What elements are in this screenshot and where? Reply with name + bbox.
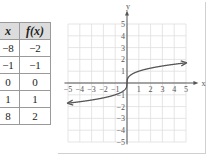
x-tick-label: −4 — [76, 85, 85, 94]
x-tick-label: 1 — [137, 85, 141, 94]
x-tick-label: 5 — [184, 85, 188, 94]
y-tick-label: 3 — [121, 44, 125, 53]
x-axis-label: x — [201, 79, 205, 88]
y-tick-label: −5 — [116, 138, 125, 147]
x-tick-label: −3 — [87, 85, 96, 94]
x-tick-label: 2 — [149, 85, 153, 94]
y-tick-label: −3 — [116, 114, 125, 123]
y-tick-label: 1 — [121, 67, 125, 76]
y-tick-label: 5 — [121, 20, 125, 29]
y-tick-label: −4 — [116, 126, 125, 135]
x-tick-label: 4 — [172, 85, 176, 94]
y-tick-label: 4 — [121, 32, 125, 41]
y-tick-label: −2 — [116, 103, 125, 112]
x-tick-label: −2 — [99, 85, 108, 94]
x-tick-label: 3 — [160, 85, 164, 94]
graph: −5−4−3−2−11234554321−1−2−3−4−5xy — [0, 0, 209, 158]
y-tick-label: 2 — [121, 55, 125, 64]
x-tick-label: −5 — [64, 85, 73, 94]
y-axis-label: y — [126, 2, 130, 11]
axes — [64, 10, 198, 144]
